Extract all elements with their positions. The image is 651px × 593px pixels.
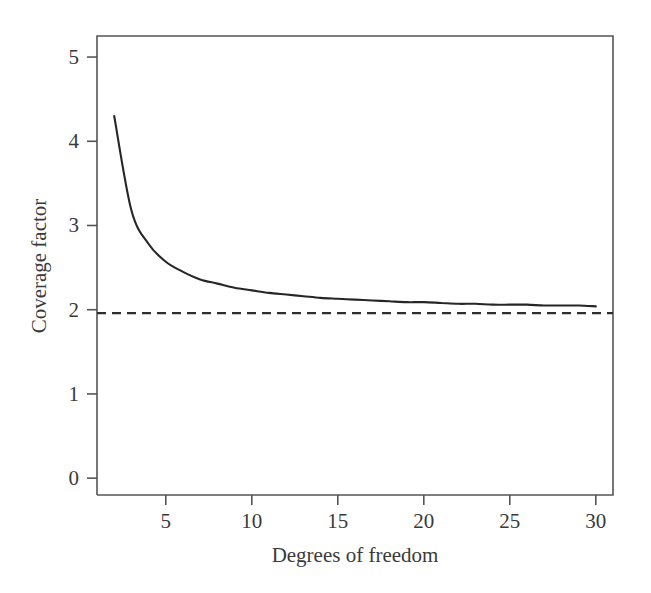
x-tick-label: 5 <box>161 509 172 533</box>
x-tick-label: 25 <box>499 509 520 533</box>
y-tick-label: 2 <box>69 298 80 322</box>
y-axis-title: Coverage factor <box>27 199 51 334</box>
y-tick-label: 1 <box>69 382 80 406</box>
x-tick-label: 20 <box>413 509 434 533</box>
y-tick-label: 3 <box>69 213 80 237</box>
y-tick-label: 4 <box>69 129 80 153</box>
y-tick-label: 5 <box>69 45 80 69</box>
figure-container: 012345 51015202530 Degrees of freedom Co… <box>0 0 651 593</box>
coverage-factor-chart: 012345 51015202530 Degrees of freedom Co… <box>0 0 651 593</box>
x-tick-label: 10 <box>241 509 262 533</box>
x-tick-label: 15 <box>327 509 348 533</box>
y-tick-label: 0 <box>69 466 80 490</box>
x-tick-label: 30 <box>585 509 606 533</box>
x-axis-title: Degrees of freedom <box>272 543 439 567</box>
